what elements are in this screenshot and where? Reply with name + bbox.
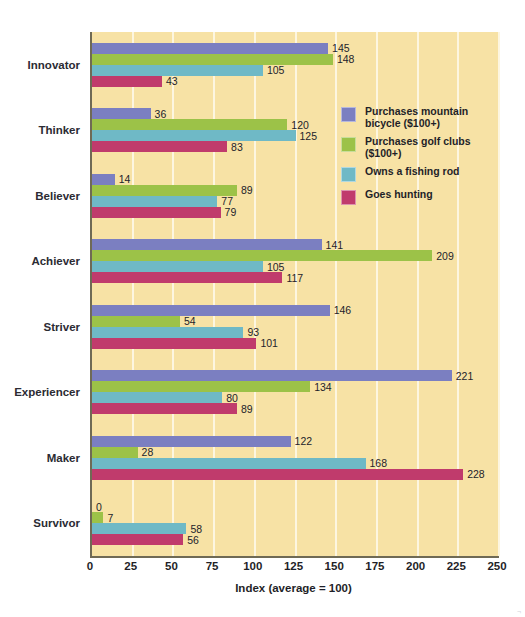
bar[interactable] <box>92 250 432 261</box>
bar-row: 105 <box>92 261 499 272</box>
bar-row: 105 <box>92 65 499 76</box>
bar-value-label: 83 <box>231 141 243 153</box>
category-label: Thinker <box>38 124 80 136</box>
chart-legend: Purchases mountain bicycle ($100+)Purcha… <box>341 106 491 212</box>
bar-group: Innovator14514810543 <box>92 43 499 87</box>
bar[interactable] <box>92 119 287 130</box>
bar[interactable] <box>92 54 333 65</box>
bar[interactable] <box>92 512 103 523</box>
bar-value-label: 105 <box>267 261 285 273</box>
x-tick-label: 100 <box>243 560 262 572</box>
legend-swatch-icon <box>341 107 356 122</box>
bar[interactable] <box>92 65 263 76</box>
legend-item[interactable]: Purchases golf clubs ($100+) <box>341 136 491 159</box>
bar-chart-figure: Innovator14514810543Thinker3612012583Bel… <box>0 0 525 617</box>
bar[interactable] <box>92 196 217 207</box>
bar-value-label: 80 <box>226 392 238 404</box>
bar[interactable] <box>92 316 180 327</box>
bar[interactable] <box>92 370 452 381</box>
bar-group: Maker12228168228 <box>92 436 499 480</box>
bar-value-label: 7 <box>107 512 113 524</box>
legend-swatch-icon <box>341 137 356 152</box>
bar-row: 122 <box>92 436 499 447</box>
bar[interactable] <box>92 469 463 480</box>
bar-value-label: 43 <box>166 75 178 87</box>
bar-value-label: 122 <box>295 435 313 447</box>
bar-row: 117 <box>92 272 499 283</box>
bar-value-label: 54 <box>184 315 196 327</box>
bar[interactable] <box>92 327 243 338</box>
bar-value-label: 93 <box>247 326 259 338</box>
x-tick-label: 75 <box>206 560 219 572</box>
x-tick-label: 150 <box>325 560 344 572</box>
bar-row: 80 <box>92 392 499 403</box>
bar-value-label: 0 <box>96 501 102 513</box>
bar-value-label: 56 <box>187 534 199 546</box>
bar-group: Survivor075856 <box>92 501 499 545</box>
bar-value-label: 105 <box>267 64 285 76</box>
bar[interactable] <box>92 381 310 392</box>
bar[interactable] <box>92 261 263 272</box>
bar-group: Striver1465493101 <box>92 305 499 349</box>
category-label: Innovator <box>28 59 80 71</box>
bar[interactable] <box>92 523 186 534</box>
bar-value-label: 89 <box>241 184 253 196</box>
legend-label: Owns a fishing rod <box>365 166 460 178</box>
corner-mark: ¬ <box>517 608 521 615</box>
x-axis-title: Index (average = 100) <box>90 582 497 594</box>
bar[interactable] <box>92 392 222 403</box>
bar-group: Experiencer2211348089 <box>92 370 499 414</box>
bar-value-label: 168 <box>370 457 388 469</box>
bar-row: 134 <box>92 381 499 392</box>
bar-row: 146 <box>92 305 499 316</box>
x-tick-label: 225 <box>447 560 466 572</box>
category-label: Maker <box>47 452 80 464</box>
bar-row: 101 <box>92 338 499 349</box>
bar[interactable] <box>92 458 366 469</box>
bar[interactable] <box>92 207 221 218</box>
bar[interactable] <box>92 436 291 447</box>
bar[interactable] <box>92 447 138 458</box>
bar[interactable] <box>92 141 227 152</box>
bar-value-label: 134 <box>314 381 332 393</box>
bar-row: 0 <box>92 501 499 512</box>
bar[interactable] <box>92 43 328 54</box>
bar[interactable] <box>92 305 330 316</box>
bar-row: 89 <box>92 403 499 414</box>
bar[interactable] <box>92 338 256 349</box>
bar[interactable] <box>92 108 151 119</box>
bar[interactable] <box>92 185 237 196</box>
bar-row: 43 <box>92 76 499 87</box>
bar-value-label: 146 <box>334 304 352 316</box>
bar[interactable] <box>92 534 183 545</box>
legend-item[interactable]: Goes hunting <box>341 189 491 205</box>
bar[interactable] <box>92 174 115 185</box>
bar-value-label: 101 <box>260 337 278 349</box>
bar-row: 209 <box>92 250 499 261</box>
category-label: Experiencer <box>14 386 80 398</box>
bar-value-label: 14 <box>119 173 131 185</box>
x-tick-label: 25 <box>124 560 137 572</box>
bar-value-label: 89 <box>241 403 253 415</box>
x-axis-tick-labels: 0255075100125150175200225250 <box>90 560 497 576</box>
bar[interactable] <box>92 239 322 250</box>
x-tick-label: 125 <box>284 560 303 572</box>
bar[interactable] <box>92 76 162 87</box>
bar-value-label: 148 <box>337 53 355 65</box>
bar-value-label: 221 <box>456 370 474 382</box>
bar[interactable] <box>92 130 296 141</box>
bar-row: 56 <box>92 534 499 545</box>
bar-value-label: 141 <box>326 239 344 251</box>
bar-row: 168 <box>92 458 499 469</box>
bar[interactable] <box>92 403 237 414</box>
bar-row: 58 <box>92 523 499 534</box>
bar[interactable] <box>92 272 282 283</box>
legend-item[interactable]: Purchases mountain bicycle ($100+) <box>341 106 491 129</box>
bar-value-label: 36 <box>155 108 167 120</box>
bar-value-label: 28 <box>142 446 154 458</box>
bar-row: 7 <box>92 512 499 523</box>
x-tick-label: 0 <box>87 560 93 572</box>
category-label: Believer <box>35 190 80 202</box>
category-label: Achiever <box>31 255 80 267</box>
legend-item[interactable]: Owns a fishing rod <box>341 166 491 182</box>
